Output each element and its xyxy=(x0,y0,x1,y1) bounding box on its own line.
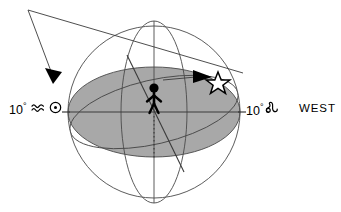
ray-line-arrowed xyxy=(28,10,52,74)
ray-line-upper xyxy=(28,10,243,73)
incoming-ray-arrowhead-icon xyxy=(45,68,62,84)
label-sun-position-aquarius: 10° xyxy=(9,101,62,117)
label-right-degree-sign: ° xyxy=(260,102,264,112)
label-right-degrees: 10 xyxy=(246,104,260,118)
label-direction-west: WEST xyxy=(299,103,336,115)
sun-glyph-icon xyxy=(49,101,62,117)
celestial-sphere-diagram: 10° 10° WEST xyxy=(0,0,341,212)
leo-glyph-icon xyxy=(265,101,279,118)
label-ascendant-leo: 10° xyxy=(246,101,279,118)
aquarius-glyph-icon xyxy=(31,102,45,117)
label-left-degree-sign: ° xyxy=(23,101,27,111)
label-left-degrees: 10 xyxy=(9,103,23,117)
